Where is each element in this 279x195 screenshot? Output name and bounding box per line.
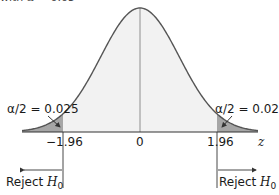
reject-text: Reject <box>219 175 260 189</box>
reject-sub: 0 <box>57 181 63 191</box>
reject-h: H <box>47 175 57 189</box>
tick-label-right: 1.96 <box>207 136 234 149</box>
tick-label-center: 0 <box>136 136 144 149</box>
left-tail-label: α/2 = 0.025 <box>7 103 79 116</box>
reject-h: H <box>260 175 270 189</box>
reject-sub: 0 <box>270 181 276 191</box>
reject-text: Reject <box>6 175 47 189</box>
normal-distribution-chart <box>0 0 279 195</box>
tick-label-left: −1.96 <box>46 136 83 149</box>
right-tail-label: α/2 = 0.025 <box>215 103 279 116</box>
reject-label-right: Reject H0 <box>219 176 276 189</box>
reject-label-left: Reject H0 <box>6 176 63 189</box>
axis-label-z: z <box>258 136 264 149</box>
